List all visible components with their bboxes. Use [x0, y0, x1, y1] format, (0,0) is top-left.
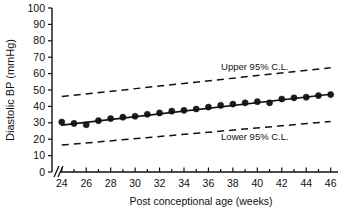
regression-line	[62, 94, 331, 125]
x-tick-label: 32	[154, 177, 166, 189]
chart-container: 0102030405060708090100242628303234363840…	[0, 0, 345, 212]
y-tick-label: 50	[33, 84, 45, 96]
upper-confidence-limit-line	[62, 68, 331, 97]
upper-cl-annotation: Upper 95% C.L.	[221, 61, 289, 72]
y-tick-label: 90	[33, 18, 45, 30]
x-tick-label: 46	[325, 177, 337, 189]
y-tick-label: 60	[33, 67, 45, 79]
y-tick-label: 20	[33, 133, 45, 145]
x-tick-label: 44	[300, 177, 312, 189]
y-axis-title: Diastolic BP (mmHg)	[4, 39, 16, 141]
y-tick-label: 10	[33, 149, 45, 161]
diastolic-bp-scatter-chart: 0102030405060708090100242628303234363840…	[0, 0, 345, 212]
x-tick-label: 26	[80, 177, 92, 189]
y-tick-label: 40	[33, 100, 45, 112]
x-tick-label: 34	[178, 177, 190, 189]
x-tick-label: 24	[56, 177, 68, 189]
x-axis-title: Post conceptional age (weeks)	[130, 195, 273, 207]
y-tick-label: 30	[33, 116, 45, 128]
x-tick-label: 42	[276, 177, 288, 189]
x-tick-label: 28	[105, 177, 117, 189]
y-tick-label: 0	[39, 166, 45, 178]
lower-confidence-limit-line	[62, 121, 331, 145]
y-tick-label: 80	[33, 34, 45, 46]
x-tick-label: 40	[251, 177, 263, 189]
y-tick-label: 70	[33, 51, 45, 63]
x-tick-label: 38	[227, 177, 239, 189]
x-tick-label: 36	[203, 177, 215, 189]
x-tick-label: 30	[129, 177, 141, 189]
y-tick-label: 100	[27, 2, 45, 14]
lower-cl-annotation: Lower 95% C.L.	[221, 131, 289, 142]
